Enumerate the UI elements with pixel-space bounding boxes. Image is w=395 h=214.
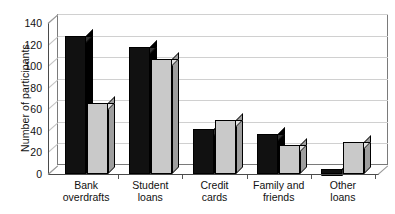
gridline [58, 36, 388, 37]
y-axis-tick-label: 20 [16, 147, 42, 158]
bar-front-face [151, 59, 172, 174]
category-label-line: loans [114, 191, 186, 203]
category-label-line: cards [179, 191, 251, 203]
bar-side-face [172, 52, 179, 174]
category-label-line: Family and [243, 179, 315, 191]
category-label-line: overdrafts [50, 191, 122, 203]
category-label-line: friends [243, 191, 315, 203]
category-label-line: loans [307, 191, 379, 203]
x-axis-category-label: Otherloans [307, 179, 379, 203]
bar-side-face [300, 138, 307, 174]
bar-series2 [151, 59, 172, 174]
bar-front-face [193, 129, 214, 174]
gridline [58, 79, 388, 80]
plot-area [48, 14, 388, 176]
y-axis-line [48, 23, 49, 174]
bar-series1 [129, 47, 150, 174]
x-axis-category-label: Studentloans [114, 179, 186, 203]
bar-series2 [215, 120, 236, 174]
bar-series1 [257, 134, 278, 174]
y-axis-tick-label: 60 [16, 104, 42, 115]
bar-series2 [87, 103, 108, 174]
category-label-line: Bank [50, 179, 122, 191]
gridline [58, 14, 388, 15]
gridline [58, 100, 388, 101]
bar-front-face [87, 103, 108, 174]
bar-chart: Number of participants 14012010080604020… [0, 0, 395, 214]
bar-series2 [343, 142, 364, 174]
x-axis-category-label: Bankoverdrafts [50, 179, 122, 203]
bar-front-face [257, 134, 278, 174]
y-axis-tick-label: 40 [16, 126, 42, 137]
x-axis-category-label: Family andfriends [243, 179, 315, 203]
category-label-line: Credit [179, 179, 251, 191]
y-axis-tick-label: 80 [16, 83, 42, 94]
gridline [58, 57, 388, 58]
bar-series1 [65, 36, 86, 174]
y-axis-tick-label: 100 [16, 61, 42, 72]
x-axis-category-label: Creditcards [179, 179, 251, 203]
x-axis-line [48, 174, 379, 175]
bar-side-face [364, 135, 371, 174]
bar-series2 [279, 145, 300, 174]
bar-front-face [65, 36, 86, 174]
category-label-line: Other [307, 179, 379, 191]
y-axis-tick-label: 140 [16, 18, 42, 29]
y-axis-tick-label: 120 [16, 40, 42, 51]
bar-front-face [129, 47, 150, 174]
bar-front-face [279, 145, 300, 174]
bar-front-face [215, 120, 236, 174]
y-axis-tick-label: 0 [16, 169, 42, 180]
bar-series1 [193, 129, 214, 174]
bar-front-face [343, 142, 364, 174]
y-axis-tick-labels: 140120100806040200 [14, 0, 42, 214]
category-label-line: Student [114, 179, 186, 191]
floor-depth-edge-right [378, 166, 388, 175]
